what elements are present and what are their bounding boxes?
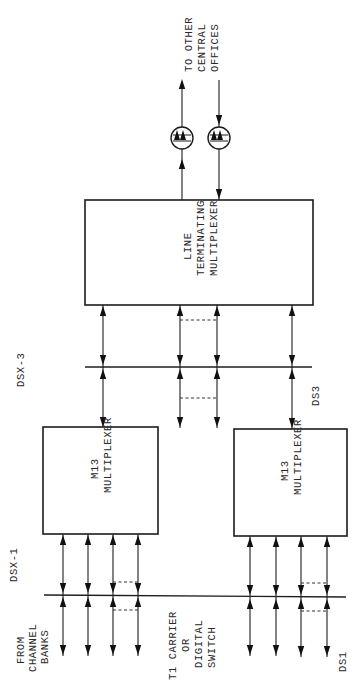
svg-text:DSX-3: DSX-3 bbox=[15, 352, 27, 387]
label-dsx3: DSX-3 bbox=[15, 352, 27, 387]
svg-text:OR: OR bbox=[180, 638, 192, 652]
svg-text:FROM: FROM bbox=[15, 636, 27, 664]
label-ds3: DS3 bbox=[310, 385, 322, 406]
svg-text:DS1: DS1 bbox=[337, 651, 349, 672]
svg-text:BANKS: BANKS bbox=[39, 629, 51, 664]
m13-multiplexer-box-right: M13 MULTIPLEXER bbox=[234, 419, 347, 536]
label-dsx1: DSX-1 bbox=[8, 547, 20, 582]
svg-text:MULTIPLEXER: MULTIPLEXER bbox=[292, 419, 304, 495]
svg-text:TO OTHER: TO OTHER bbox=[183, 17, 195, 72]
label-t1-carrier-or-digital-switch: T1 CARRIER OR DIGITAL SWITCH bbox=[167, 611, 218, 680]
svg-text:M13: M13 bbox=[279, 460, 291, 481]
line-terminating-multiplexer-box: LINE TERMINATING MULTIPLEXER bbox=[85, 200, 313, 305]
label-from-channel-banks: FROM CHANNEL BANKS bbox=[15, 624, 51, 672]
svg-text:DIGITAL: DIGITAL bbox=[193, 620, 205, 668]
svg-text:MULTIPLEXER: MULTIPLEXER bbox=[102, 417, 114, 493]
incoming-ds3-path bbox=[208, 80, 230, 200]
svg-text:LINE: LINE bbox=[182, 232, 194, 260]
svg-text:DS3: DS3 bbox=[310, 385, 322, 406]
regenerator-icon bbox=[171, 127, 193, 149]
svg-text:T1 CARRIER: T1 CARRIER bbox=[167, 611, 179, 680]
svg-text:CHANNEL: CHANNEL bbox=[27, 624, 39, 672]
regenerator-icon bbox=[208, 127, 230, 149]
svg-text:MULTIPLEXER: MULTIPLEXER bbox=[208, 200, 220, 276]
m13-multiplexer-box-left: M13 MULTIPLEXER bbox=[43, 417, 158, 534]
dsx-hierarchy-diagram: TO OTHER CENTRAL OFFICES LINE TERMINATIN… bbox=[0, 0, 359, 692]
svg-text:SWITCH: SWITCH bbox=[206, 627, 218, 668]
svg-text:TERMINATING: TERMINATING bbox=[195, 200, 207, 276]
svg-text:CENTRAL: CENTRAL bbox=[196, 24, 208, 72]
outgoing-ds3-path bbox=[171, 79, 193, 200]
svg-text:OFFICES: OFFICES bbox=[209, 24, 221, 72]
label-to-other-central-offices: TO OTHER CENTRAL OFFICES bbox=[183, 17, 221, 72]
label-ds1: DS1 bbox=[337, 651, 349, 672]
svg-text:M13: M13 bbox=[89, 458, 101, 479]
svg-text:DSX-1: DSX-1 bbox=[8, 547, 20, 582]
